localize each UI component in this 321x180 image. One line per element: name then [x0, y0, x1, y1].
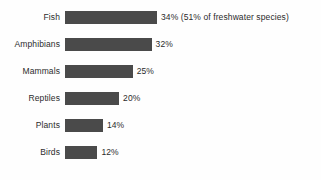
value-label-amphibians: 32%: [156, 38, 173, 51]
category-label-amphibians: Amphibians: [0, 38, 60, 51]
bar-reptiles: [65, 92, 119, 105]
chart-row: Birds 12%: [0, 146, 321, 159]
chart-row: Plants 14%: [0, 119, 321, 132]
bar-track: 25%: [65, 65, 321, 78]
horizontal-bar-chart: Fish 34% (51% of freshwater species) Amp…: [0, 0, 321, 180]
bar-birds: [65, 146, 97, 159]
category-label-birds: Birds: [0, 146, 60, 159]
bar-plants: [65, 119, 103, 132]
bar-track: 12%: [65, 146, 321, 159]
value-label-plants: 14%: [107, 119, 124, 132]
bar-amphibians: [65, 38, 152, 51]
category-label-reptiles: Reptiles: [0, 92, 60, 105]
bar-track: 20%: [65, 92, 321, 105]
chart-row: Amphibians 32%: [0, 38, 321, 51]
bar-mammals: [65, 65, 133, 78]
value-label-birds: 12%: [101, 146, 118, 159]
category-label-mammals: Mammals: [0, 65, 60, 78]
value-label-reptiles: 20%: [123, 92, 140, 105]
chart-row: Fish 34% (51% of freshwater species): [0, 11, 321, 24]
category-label-fish: Fish: [0, 11, 60, 24]
bar-track: 14%: [65, 119, 321, 132]
chart-row: Reptiles 20%: [0, 92, 321, 105]
value-label-fish: 34% (51% of freshwater species): [161, 11, 289, 24]
bar-fish: [65, 11, 157, 24]
value-label-mammals: 25%: [137, 65, 154, 78]
chart-row: Mammals 25%: [0, 65, 321, 78]
bar-track: 34% (51% of freshwater species): [65, 11, 321, 24]
bar-track: 32%: [65, 38, 321, 51]
category-label-plants: Plants: [0, 119, 60, 132]
